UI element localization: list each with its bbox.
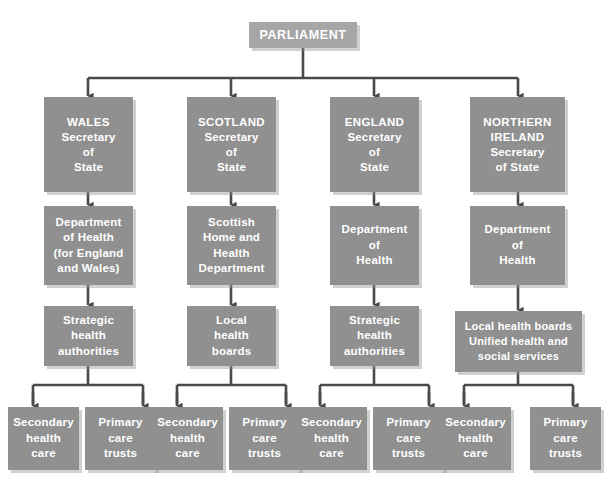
node-northern-ireland-authority[interactable]: Local health boards Unified health and s… bbox=[455, 311, 582, 372]
node-label-line: ENGLAND bbox=[345, 115, 405, 130]
node-label-line: Secretary bbox=[490, 145, 544, 160]
node-label-line: Primary bbox=[386, 415, 430, 431]
node-label-line: WALES bbox=[67, 115, 110, 130]
node-label: PARLIAMENT bbox=[259, 28, 346, 42]
node-label-line: trusts bbox=[104, 446, 137, 462]
node-label-line: boards bbox=[212, 344, 252, 360]
node-scotland-department[interactable]: Scottish Home and Health Department bbox=[187, 206, 276, 285]
node-parliament[interactable]: PARLIAMENT bbox=[249, 22, 357, 48]
node-label-line: care bbox=[31, 446, 55, 462]
node-scotland-authority[interactable]: Local health boards bbox=[187, 306, 276, 366]
node-label-line: authorities bbox=[344, 344, 405, 360]
node-northern-ireland-department[interactable]: Department of Health bbox=[470, 206, 565, 285]
node-scotland-primary-care-trusts[interactable]: Primary care trusts bbox=[229, 407, 300, 470]
node-label-line: health bbox=[357, 328, 392, 344]
node-label-line: health bbox=[214, 328, 249, 344]
node-label-line: Health bbox=[499, 253, 535, 269]
node-label-line: health bbox=[26, 431, 61, 447]
edge-wales-auth-to-services bbox=[33, 366, 143, 404]
edge-ni-auth-to-services bbox=[464, 372, 573, 404]
node-label-line: Home and bbox=[203, 230, 260, 246]
node-label-line: care bbox=[396, 431, 420, 447]
node-wales-department[interactable]: Department of Health (for England and Wa… bbox=[44, 206, 133, 285]
node-label-line: Secondary bbox=[445, 415, 506, 431]
node-label-line: Primary bbox=[543, 415, 587, 431]
node-label-line: NORTHERN bbox=[483, 115, 551, 130]
node-label-line: of Health bbox=[63, 230, 114, 246]
node-label-line: health bbox=[170, 431, 205, 447]
node-label-line: Secretary bbox=[204, 130, 258, 145]
node-label-line: health bbox=[458, 431, 493, 447]
node-label-line: SCOTLAND bbox=[198, 115, 265, 130]
node-label-line: of bbox=[369, 238, 380, 254]
node-wales-primary-care-trusts[interactable]: Primary care trusts bbox=[85, 407, 156, 470]
node-label-line: Secretary bbox=[61, 130, 115, 145]
node-label-line: State bbox=[217, 160, 246, 175]
node-scotland-secondary-health-care[interactable]: Secondary health care bbox=[152, 407, 223, 470]
node-label-line: health bbox=[71, 328, 106, 344]
node-england-authority[interactable]: Strategic health authorities bbox=[330, 306, 419, 366]
node-label-line: care bbox=[319, 446, 343, 462]
node-label-line: of bbox=[369, 145, 380, 160]
node-label-line: IRELAND bbox=[491, 130, 545, 145]
node-label-line: health bbox=[314, 431, 349, 447]
node-england-department[interactable]: Department of Health bbox=[330, 206, 419, 285]
node-label-line: (for England bbox=[53, 246, 123, 262]
node-northern-ireland-secondary-health-care[interactable]: Secondary health care bbox=[440, 407, 511, 470]
node-england-secretary[interactable]: ENGLAND Secretary of State bbox=[330, 97, 419, 192]
node-label-line: of State bbox=[496, 160, 540, 175]
node-label-line: authorities bbox=[58, 344, 119, 360]
node-label-line: care bbox=[252, 431, 276, 447]
node-label-line: of bbox=[512, 238, 523, 254]
node-label-line: Department bbox=[485, 222, 551, 238]
node-label-line: Secretary bbox=[347, 130, 401, 145]
node-label-line: Secondary bbox=[301, 415, 362, 431]
node-wales-secondary-health-care[interactable]: Secondary health care bbox=[8, 407, 79, 470]
node-label-line: care bbox=[553, 431, 577, 447]
node-label-line: State bbox=[360, 160, 389, 175]
edge-scotland-auth-to-services bbox=[177, 366, 286, 404]
node-label-line: Secondary bbox=[157, 415, 218, 431]
node-label-line: Primary bbox=[242, 415, 286, 431]
node-label-line: Department bbox=[199, 261, 265, 277]
node-northern-ireland-primary-care-trusts[interactable]: Primary care trusts bbox=[530, 407, 601, 470]
node-scotland-secretary[interactable]: SCOTLAND Secretary of State bbox=[187, 97, 276, 192]
node-label-line: care bbox=[463, 446, 487, 462]
node-england-secondary-health-care[interactable]: Secondary health care bbox=[296, 407, 367, 470]
node-label-line: trusts bbox=[392, 446, 425, 462]
node-label-line: Primary bbox=[98, 415, 142, 431]
node-northern-ireland-secretary[interactable]: NORTHERN IRELAND Secretary of State bbox=[470, 97, 565, 192]
node-label-line: social services bbox=[478, 349, 559, 364]
node-label-line: Health bbox=[356, 253, 392, 269]
node-label-line: Department bbox=[342, 222, 408, 238]
node-label-line: Secondary bbox=[13, 415, 74, 431]
node-label-line: trusts bbox=[549, 446, 582, 462]
node-label-line: Health bbox=[213, 246, 249, 262]
edge-england-auth-to-services bbox=[320, 366, 429, 404]
node-label-line: and Wales) bbox=[57, 261, 119, 277]
node-label-line: Department bbox=[56, 215, 122, 231]
node-label-line: trusts bbox=[248, 446, 281, 462]
node-england-primary-care-trusts[interactable]: Primary care trusts bbox=[373, 407, 444, 470]
node-label-line: Local bbox=[216, 313, 247, 329]
diagram-canvas: PARLIAMENT WALES Secretary of State SCOT… bbox=[0, 0, 609, 497]
node-label-line: care bbox=[108, 431, 132, 447]
node-label-line: of bbox=[83, 145, 94, 160]
node-label-line: Strategic bbox=[349, 313, 400, 329]
node-label-line: Scottish bbox=[208, 215, 255, 231]
node-wales-secretary[interactable]: WALES Secretary of State bbox=[44, 97, 133, 192]
node-label-line: Strategic bbox=[63, 313, 114, 329]
node-label-line: Unified health and bbox=[469, 334, 568, 349]
node-label-line: of bbox=[226, 145, 237, 160]
node-label-line: State bbox=[74, 160, 103, 175]
node-wales-authority[interactable]: Strategic health authorities bbox=[44, 306, 133, 366]
node-label-line: Local health boards bbox=[465, 319, 573, 334]
node-label-line: care bbox=[175, 446, 199, 462]
